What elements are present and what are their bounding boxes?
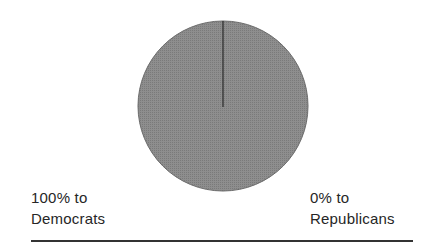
- republicans-name: Republicans: [310, 208, 395, 229]
- democrats-label: 100% to Democrats: [31, 187, 105, 229]
- democrats-name: Democrats: [31, 208, 105, 229]
- democrats-percent: 100% to: [31, 187, 105, 208]
- republicans-percent: 0% to: [310, 187, 395, 208]
- republicans-label: 0% to Republicans: [310, 187, 395, 229]
- bottom-rule: [31, 240, 413, 242]
